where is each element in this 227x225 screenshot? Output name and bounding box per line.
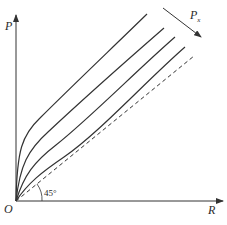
- curve-2: [16, 28, 164, 201]
- curve-4: [16, 47, 185, 201]
- reference-line-45: [16, 56, 194, 201]
- plot-svg: [0, 0, 227, 225]
- x-axis-label: R: [208, 204, 215, 216]
- diagram-canvas: P R O Px 45°: [0, 0, 227, 225]
- angle-arc: [37, 184, 42, 201]
- curve-1: [16, 14, 147, 201]
- angle-label: 45°: [44, 188, 57, 198]
- arrow-label: Px: [190, 9, 200, 24]
- curve-3: [16, 37, 175, 201]
- arrow-label-sub: x: [197, 16, 200, 24]
- y-axis-label: P: [5, 20, 12, 32]
- origin-label: O: [4, 203, 13, 215]
